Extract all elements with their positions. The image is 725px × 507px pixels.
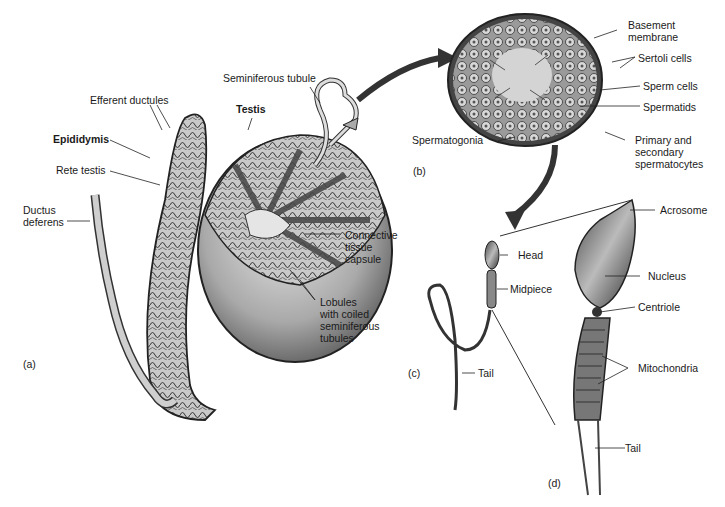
testis-sperm-diagram: Seminiferous tubule Efferent ductules Te… bbox=[0, 0, 725, 507]
arrow-b-to-c bbox=[515, 145, 555, 215]
label-spermatids: Spermatids bbox=[643, 101, 696, 113]
label-lobules: Lobules with coiled seminiferous tubules bbox=[320, 296, 380, 344]
label-sperm-cells: Sperm cells bbox=[643, 80, 698, 92]
panel-tag-c: (c) bbox=[408, 367, 420, 379]
label-spermatocytes: Primary and secondary spermatocytes bbox=[635, 134, 703, 170]
label-tail-d: Tail bbox=[625, 442, 641, 454]
arrow-a-to-b bbox=[358, 58, 440, 100]
label-tail-c: Tail bbox=[478, 367, 494, 379]
sperm-small-illustration bbox=[429, 241, 499, 410]
label-ductus-deferens: Ductus deferens bbox=[23, 204, 64, 228]
label-centriole: Centriole bbox=[638, 301, 680, 313]
label-head: Head bbox=[518, 249, 543, 261]
label-sertoli-cells: Sertoli cells bbox=[638, 52, 692, 64]
tubule-cross-section bbox=[448, 14, 602, 146]
label-connective-tissue-capsule: Connective tissue capsule bbox=[345, 229, 398, 265]
panel-tag-b: (b) bbox=[413, 165, 426, 177]
label-nucleus: Nucleus bbox=[648, 270, 686, 282]
label-mitochondria: Mitochondria bbox=[638, 362, 698, 374]
label-epididymis: Epididymis bbox=[53, 133, 109, 145]
label-efferent-ductules: Efferent ductules bbox=[90, 94, 169, 106]
label-seminiferous-tubule: Seminiferous tubule bbox=[223, 72, 316, 84]
panel-tag-d: (d) bbox=[548, 477, 561, 489]
panel-tag-a: (a) bbox=[23, 358, 36, 370]
label-acrosome: Acrosome bbox=[660, 204, 707, 216]
label-testis: Testis bbox=[236, 103, 266, 115]
label-midpiece: Midpiece bbox=[510, 283, 552, 295]
label-spermatogonia: Spermatogonia bbox=[412, 134, 483, 146]
epididymis-illustration bbox=[95, 114, 215, 420]
label-rete-testis: Rete testis bbox=[56, 164, 106, 176]
label-basement-membrane: Basement membrane bbox=[628, 19, 678, 43]
